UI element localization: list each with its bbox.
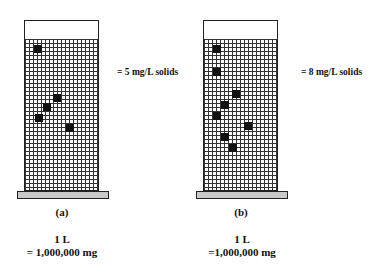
solid-particle <box>43 103 51 111</box>
beaker-base-a <box>17 191 109 199</box>
solid-particle <box>229 144 237 152</box>
volume-label-a: 1 L = 1,000,000 mg <box>2 233 122 259</box>
solid-particle <box>221 101 229 109</box>
volume-label-b: 1 L =1,000,000 mg <box>182 233 302 259</box>
solid-particle <box>34 45 42 53</box>
beaker-a <box>24 20 99 191</box>
solid-particle <box>221 133 229 141</box>
headspace-b <box>204 21 277 40</box>
panel-label-a: (a) <box>42 206 82 218</box>
mass-value-b: =1,000,000 mg <box>182 246 302 259</box>
solid-particle <box>232 90 240 98</box>
solid-particle <box>244 122 252 130</box>
beaker-b <box>203 20 278 191</box>
solid-particle <box>66 124 74 132</box>
solid-particle <box>213 112 221 120</box>
concentration-label-b: = 8 mg/L solids <box>301 67 362 77</box>
solid-particle <box>213 45 221 53</box>
solid-particle <box>35 114 43 122</box>
volume-value-b: 1 L <box>182 233 302 246</box>
headspace-a <box>25 21 98 40</box>
mass-value-a: = 1,000,000 mg <box>2 246 122 259</box>
volume-value-a: 1 L <box>2 233 122 246</box>
solid-particle <box>53 94 61 102</box>
solid-particle <box>213 68 221 76</box>
beaker-base-b <box>196 191 288 199</box>
panel-label-b: (b) <box>221 206 261 218</box>
concentration-label-a: = 5 mg/L solids <box>117 67 178 77</box>
